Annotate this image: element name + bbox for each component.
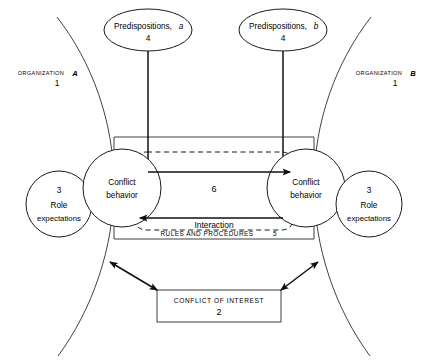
role-expectations-b-number: 3 (367, 186, 372, 195)
center-region-number: 6 (211, 184, 216, 194)
predispositions-a-number: 4 (146, 33, 151, 43)
conflict-behavior-b-node: Conflict behavior (267, 149, 345, 227)
conflict-of-interest-number: 2 (216, 307, 221, 317)
organization-a-label-group: ORGANIZATION A 1 (18, 69, 78, 89)
diagram-canvas: Predispositions, a 4 Predispositions, b … (0, 0, 428, 361)
role-expectations-b-line1: Role (361, 201, 378, 210)
organization-b-letter: B (410, 69, 416, 78)
rules-and-procedures-number: 5 (273, 230, 277, 237)
role-expectations-a-node: 3 Role expectations (26, 171, 92, 237)
conflict-of-interest-label: CONFLICT OF INTEREST (174, 297, 264, 304)
role-expectations-b-line2: expectations (347, 214, 391, 223)
conflict-of-interest-arrow-right (281, 262, 318, 290)
role-expectations-a-line2: expectations (37, 214, 81, 223)
predispositions-b-letter: b (314, 22, 319, 31)
diagram-root: Predispositions, a 4 Predispositions, b … (0, 0, 428, 361)
predispositions-a-node: Predispositions, a 4 (104, 9, 192, 51)
rules-and-procedures-label: RULES AND PROCEDURES (160, 230, 253, 237)
predispositions-b-label: Predispositions, (249, 22, 307, 31)
predispositions-b-node: Predispositions, b 4 (239, 9, 327, 51)
predispositions-a-label: Predispositions, (114, 22, 172, 31)
conflict-behavior-a-line2: behavior (106, 191, 138, 200)
conflict-behavior-b-line1: Conflict (292, 178, 320, 187)
organization-b-name: ORGANIZATION (356, 70, 402, 76)
predispositions-a-letter: a (179, 22, 184, 31)
conflict-behavior-a-line1: Conflict (108, 178, 136, 187)
conflict-of-interest-arrow-left (110, 262, 157, 290)
conflict-of-interest-box: CONFLICT OF INTEREST 2 (157, 290, 281, 322)
organization-a-letter: A (71, 69, 77, 78)
organization-b-number: 1 (393, 78, 398, 88)
role-expectations-b-node: 3 Role expectations (336, 171, 402, 237)
organization-b-label-group: ORGANIZATION B 1 (356, 69, 416, 89)
predispositions-b-number: 4 (281, 33, 286, 43)
conflict-behavior-a-node: Conflict behavior (83, 149, 161, 227)
role-expectations-a-number: 3 (57, 186, 62, 195)
role-expectations-a-line1: Role (51, 201, 68, 210)
conflict-behavior-b-line2: behavior (290, 191, 322, 200)
organization-a-name: ORGANIZATION (18, 70, 64, 76)
organization-a-number: 1 (55, 78, 60, 88)
